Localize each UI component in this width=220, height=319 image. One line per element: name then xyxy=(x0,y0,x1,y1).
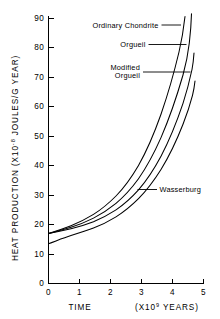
series-label-orgueil: Orgueil xyxy=(120,40,145,49)
series-label-wasserburg: Wasserburg xyxy=(160,185,202,194)
y-tick-label-50: 50 xyxy=(34,132,44,141)
y-axis-title-exponent: -8 xyxy=(10,138,16,145)
y-tick-label-90: 90 xyxy=(34,14,44,23)
series-label-ordinary-chondrite: Ordinary Chondrite xyxy=(92,21,158,30)
x-axis-title-units-prefix: (X10 xyxy=(135,303,156,312)
x-axis-title: TIME (X109 YEARS) xyxy=(68,302,198,312)
x-tick-label-5: 5 xyxy=(201,288,206,297)
y-tick-label-60: 60 xyxy=(34,102,44,111)
y-tick-label-70: 70 xyxy=(34,73,44,82)
series-labels: Ordinary Chondrite Orgueil Modified Orgu… xyxy=(92,21,201,195)
y-tick-label-0: 0 xyxy=(39,279,44,288)
y-tick-labels: 0 10 20 30 40 50 60 70 80 90 xyxy=(34,14,44,289)
x-tick-label-4: 4 xyxy=(170,288,175,297)
x-axis-ticks xyxy=(49,279,204,284)
y-axis-title-tail: JOULES/G YEAR) xyxy=(11,55,20,138)
x-tick-label-0: 0 xyxy=(46,288,51,297)
x-tick-label-2: 2 xyxy=(108,288,113,297)
x-tick-label-1: 1 xyxy=(77,288,82,297)
svg-text:HEAT PRODUCTION (X10-8 JOULES/: HEAT PRODUCTION (X10-8 JOULES/G YEAR) xyxy=(10,55,20,261)
y-axis-title: HEAT PRODUCTION (X10-8 JOULES/G YEAR) xyxy=(10,55,20,261)
x-tick-labels: 0 1 2 3 4 5 xyxy=(46,288,206,297)
y-tick-label-80: 80 xyxy=(34,43,44,52)
heat-production-line-chart: 0 10 20 30 40 50 60 70 80 90 0 1 2 3 4 5… xyxy=(0,0,220,319)
chart-figure: 0 10 20 30 40 50 60 70 80 90 0 1 2 3 4 5… xyxy=(0,0,220,319)
curve-ordinary-chondrite xyxy=(49,17,186,234)
y-tick-label-40: 40 xyxy=(34,161,44,170)
x-axis-title-main: TIME xyxy=(68,303,91,312)
y-tick-label-20: 20 xyxy=(34,220,44,229)
svg-text:(X109 YEARS): (X109 YEARS) xyxy=(135,302,199,312)
y-tick-label-10: 10 xyxy=(34,250,44,259)
series-label-modified-orgueil-line2: Orgueil xyxy=(115,71,140,80)
x-tick-label-3: 3 xyxy=(139,288,144,297)
axis-lines xyxy=(48,16,204,284)
x-axis-title-units-tail: YEARS) xyxy=(160,303,199,312)
y-axis-title-main: HEAT PRODUCTION (X10 xyxy=(11,145,20,261)
y-tick-label-30: 30 xyxy=(34,191,44,200)
